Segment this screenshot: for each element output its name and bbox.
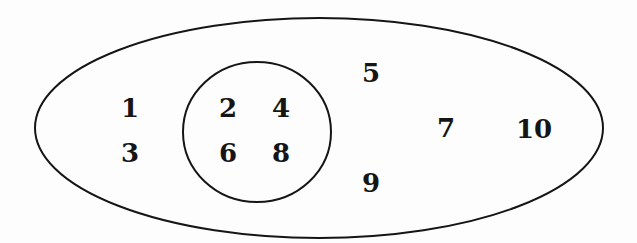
element-2: 2	[219, 95, 237, 121]
element-1: 1	[121, 95, 139, 121]
element-5: 5	[362, 60, 380, 86]
element-3: 3	[121, 140, 139, 166]
element-8: 8	[272, 140, 290, 166]
element-7: 7	[437, 115, 455, 141]
inner-set-circle	[183, 62, 331, 202]
venn-diagram: 1 3 2 4 6 8 5 9 7 10	[0, 0, 637, 243]
element-10: 10	[516, 116, 552, 142]
element-4: 4	[272, 95, 290, 121]
element-9: 9	[362, 170, 380, 196]
element-6: 6	[219, 140, 237, 166]
